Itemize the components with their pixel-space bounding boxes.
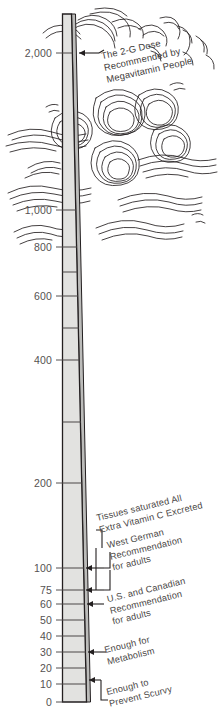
- tick-label-75: 75: [0, 585, 52, 595]
- tick-label-200: 200: [0, 478, 52, 488]
- tick-label-20: 20: [0, 663, 52, 673]
- tick-marks: [56, 53, 63, 702]
- tick-label-50: 50: [0, 615, 52, 625]
- tick-label-30: 30: [0, 647, 52, 657]
- tick-label-1000: 1,000: [0, 205, 52, 215]
- tick-label-600: 600: [0, 291, 52, 301]
- tick-label-800: 800: [0, 242, 52, 252]
- tick-label-100: 100: [0, 563, 52, 573]
- tick-label-0: 0: [0, 697, 52, 707]
- tick-label-10: 10: [0, 679, 52, 689]
- tick-label-60: 60: [0, 599, 52, 609]
- tick-label-40: 40: [0, 631, 52, 641]
- tick-label-2000: 2,000: [0, 48, 52, 58]
- vitamin-c-dose-figure: 2,000 1,000 800 600 400 200 100 75 60 50…: [0, 0, 224, 712]
- tick-label-400: 400: [0, 355, 52, 365]
